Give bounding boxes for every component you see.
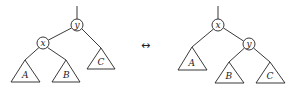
left-subtree-b-label: B <box>62 70 70 80</box>
right-subtree-a-label: A <box>188 58 196 68</box>
right-tree: A B C x y <box>178 6 285 83</box>
right-node-y-label: y <box>246 39 253 49</box>
right-node-x-label: x <box>216 20 221 30</box>
left-edge-x-b <box>48 48 67 61</box>
left-edge-x-a <box>25 48 39 61</box>
left-node-x-label: x <box>41 38 46 48</box>
bidirectional-arrow-icon: ↔ <box>141 39 150 52</box>
left-subtree-a-label: A <box>21 70 29 80</box>
right-subtree-b-label: B <box>225 71 233 81</box>
left-tree: A B C y x <box>11 6 115 82</box>
right-subtree-c-label: C <box>267 71 274 81</box>
left-subtree-c-label: C <box>98 57 105 67</box>
right-edge-y-c <box>254 48 271 62</box>
left-node-y-label: y <box>74 20 81 30</box>
tree-rotation-diagram: A B C y x ↔ A B C x y <box>0 0 292 89</box>
left-edge-y-x <box>49 28 72 40</box>
right-edge-y-b <box>229 48 245 62</box>
left-edge-y-c <box>82 29 101 48</box>
right-edge-x-a <box>192 29 214 47</box>
right-edge-x-y <box>224 28 244 41</box>
